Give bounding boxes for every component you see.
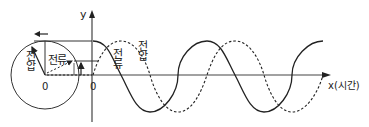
x-axis-label: x(시간) <box>328 80 360 91</box>
voltage-vector-label: 전압 <box>24 50 35 70</box>
current-wave <box>93 41 323 112</box>
current-wave-label: 전류 <box>111 48 122 68</box>
rotation-arrow-icon <box>34 31 48 37</box>
circle-origin-label: 0 <box>42 81 48 92</box>
graph-origin-label: 0 <box>90 81 96 92</box>
current-projection-box <box>74 61 98 75</box>
voltage-wave-label: 전압 <box>136 40 147 60</box>
voltage-wave <box>93 41 323 112</box>
current-vector-label: 전류 <box>48 55 66 66</box>
y-axis <box>89 10 95 122</box>
y-axis-label: y <box>80 9 87 20</box>
